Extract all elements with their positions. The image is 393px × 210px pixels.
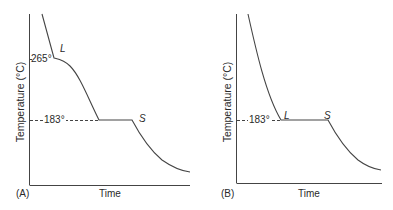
panel-b-183-label: 183° [248,114,271,125]
panel-a-y-axis-label: Temperature (°C) [14,52,26,152]
panel-b-tag: (B) [221,188,234,199]
panel-a-x-axis-label: Time [99,188,121,199]
panel-b-liquidus-label: L [284,110,290,121]
cooling-curves-figure [0,0,393,210]
panel-a-liquidus-label: L [60,43,66,54]
panel-a-axes [30,14,191,186]
panel-a-cooling-curve [42,14,190,172]
panel-a-183-label: 183° [43,114,66,125]
panel-b-x-axis-label: Time [298,188,320,199]
panel-a-tag: (A) [16,188,29,199]
panel-a-265-label: 265° [31,53,52,64]
panel-a-solidus-label: S [139,113,146,124]
panel-b-axes [237,14,383,184]
panel-b-cooling-curve [248,14,381,170]
panel-b-y-axis-label: Temperature (°C) [221,52,233,152]
panel-b-solidus-label: S [324,110,331,121]
